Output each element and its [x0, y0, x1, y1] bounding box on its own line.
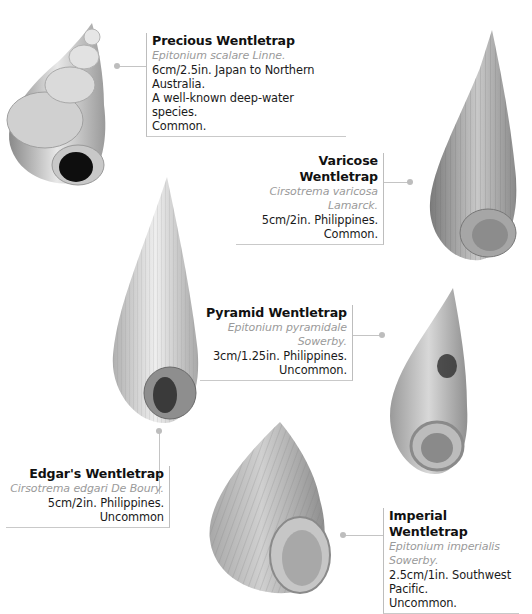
pyramid-wentletrap-shell-image: [385, 286, 475, 476]
varicose-connector-dot: [407, 179, 413, 185]
precious-wentletrap-caption: Precious Wentletrap Epitonium scalare Li…: [146, 33, 346, 137]
scientific-name: Epitonium imperialis Sowerby.: [389, 540, 515, 568]
precious-connector-line: [118, 66, 146, 67]
precious-connector-dot: [114, 63, 120, 69]
imperial-connector-dot: [340, 532, 346, 538]
species-name: Varicose Wentletrap: [236, 153, 378, 185]
scientific-name: Epitonium pyramidale Sowerby.: [200, 321, 347, 349]
species-detail: 3cm/1.25in. Philippines.: [200, 349, 347, 363]
species-detail: Common.: [236, 227, 378, 241]
species-detail: 6cm/2.5in. Japan to Northern Australia.: [152, 63, 342, 91]
species-detail: 2.5cm/1in. Southwest Pacific.: [389, 568, 515, 596]
scientific-name: Cirsotrema edgari De Boury.: [6, 482, 164, 496]
precious-wentletrap-shell-image: [0, 15, 110, 185]
pyramid-wentletrap-caption: Pyramid Wentletrap Epitonium pyramidale …: [200, 305, 353, 381]
species-detail: 5cm/2in. Philippines.: [6, 496, 164, 510]
scientific-name: Cirsotrema varicosa Lamarck.: [236, 185, 378, 213]
species-name: Precious Wentletrap: [152, 33, 342, 49]
species-detail: Uncommon.: [200, 363, 347, 377]
varicose-connector-line: [383, 182, 410, 183]
imperial-wentletrap-shell-image: [200, 420, 360, 594]
species-name: Imperial Wentletrap: [389, 508, 515, 540]
imperial-wentletrap-caption: Imperial Wentletrap Epitonium imperialis…: [383, 508, 519, 614]
species-detail: A well-known deep-water species.: [152, 91, 342, 119]
edgars-connector-dot: [156, 428, 162, 434]
species-name: Edgar's Wentletrap: [6, 466, 164, 482]
pyramid-connector-line: [352, 335, 382, 336]
species-detail: Common.: [152, 119, 342, 133]
edgars-wentletrap-shell-image: [105, 175, 205, 425]
species-name: Pyramid Wentletrap: [200, 305, 347, 321]
scientific-name: Epitonium scalare Linne.: [152, 49, 342, 63]
pyramid-connector-dot: [379, 332, 385, 338]
species-detail: Uncommon.: [389, 596, 515, 610]
imperial-connector-line: [343, 535, 383, 536]
varicose-wentletrap-caption: Varicose Wentletrap Cirsotrema varicosa …: [236, 153, 384, 245]
species-detail: 5cm/2in. Philippines.: [236, 213, 378, 227]
species-detail: Uncommon: [6, 510, 164, 524]
edgars-wentletrap-caption: Edgar's Wentletrap Cirsotrema edgari De …: [6, 466, 170, 528]
varicose-wentletrap-shell-image: [410, 28, 525, 263]
